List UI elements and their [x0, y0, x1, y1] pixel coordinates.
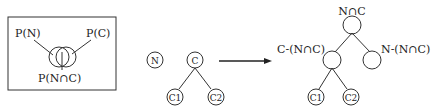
- arrow-head-icon: [264, 58, 272, 64]
- node-c-label: C: [192, 56, 199, 66]
- node-left: [323, 51, 341, 69]
- node-out-c2-label: C2: [345, 93, 358, 103]
- right-label: N-(N∩C): [381, 43, 430, 56]
- edge-c-c2: [195, 68, 211, 89]
- node-right: [363, 51, 381, 69]
- edge-root-left: [335, 33, 352, 52]
- node-out-c1-label: C1: [310, 93, 323, 103]
- diagram-canvas: P(N) P(C) P(N∩C) N C C1 C2 N∩C C-(N∩C): [0, 0, 437, 111]
- node-n-label: N: [151, 56, 159, 66]
- node-root: [343, 16, 361, 34]
- edge-c-c1: [179, 68, 195, 89]
- node-c2-label: C2: [210, 93, 223, 103]
- label-p-intersection: P(N∩C): [38, 72, 81, 85]
- label-p-n: P(N): [15, 27, 41, 40]
- node-c1-label: C1: [169, 93, 182, 103]
- edge-root-right: [352, 33, 370, 52]
- output-tree: N∩C C-(N∩C) N-(N∩C) C1 C2: [277, 5, 430, 105]
- label-p-c: P(C): [86, 27, 110, 40]
- edge-left-c1: [319, 68, 332, 89]
- venn-panel: P(N) P(C) P(N∩C): [8, 17, 116, 90]
- left-label: C-(N∩C): [277, 43, 325, 56]
- transform-arrow: [219, 58, 272, 64]
- input-tree: N C C1 C2: [147, 52, 224, 105]
- edge-left-c2: [332, 68, 347, 89]
